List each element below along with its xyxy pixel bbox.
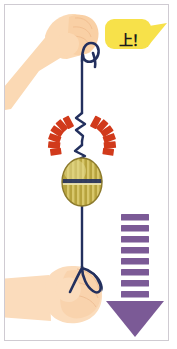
downward-arrow-group <box>106 214 164 337</box>
speech-bubble-body <box>105 19 151 49</box>
arrow-dash <box>121 269 149 276</box>
illustration-panel: 上！ <box>0 0 177 349</box>
arrow-dash <box>121 280 149 287</box>
burst-ray <box>104 141 117 149</box>
illustration-canvas <box>5 5 168 340</box>
arrow-dash <box>121 236 149 243</box>
spinning-top-highlight <box>64 160 86 182</box>
spinning-top-group <box>62 158 102 206</box>
lower-thumb <box>56 278 81 302</box>
upper-hand-group <box>5 14 99 111</box>
illustration-frame: 上！ <box>4 4 169 341</box>
arrow-dash <box>121 258 149 265</box>
arrow-dash <box>121 225 149 232</box>
burst-ray <box>102 148 114 156</box>
burst-ray <box>48 141 61 149</box>
arrow-dash <box>121 214 149 221</box>
spinning-top-groove-light <box>62 183 102 185</box>
burst-ray <box>50 148 62 156</box>
speech-bubble-group <box>105 19 167 49</box>
arrow-head <box>106 301 164 337</box>
lower-hand-group <box>5 266 102 323</box>
arrow-dash <box>121 247 149 254</box>
arrow-dash <box>121 291 149 298</box>
string-squiggle-upper <box>76 113 85 141</box>
lower-forearm <box>5 275 51 321</box>
